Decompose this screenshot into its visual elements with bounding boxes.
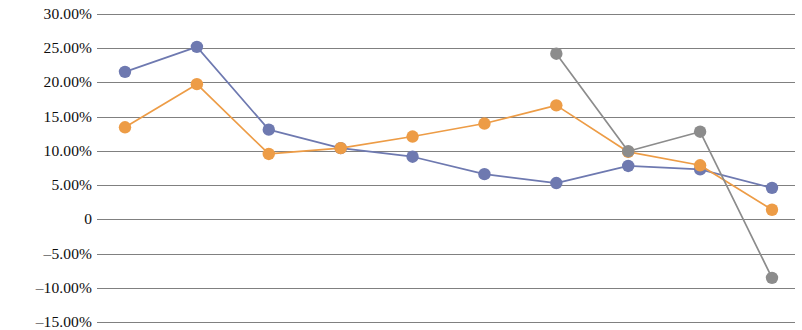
data-point-marker[interactable]: [191, 41, 203, 53]
data-point-marker[interactable]: [550, 47, 562, 59]
data-point-marker[interactable]: [550, 99, 562, 111]
series-line-2: [125, 84, 772, 210]
data-point-marker[interactable]: [119, 66, 131, 78]
data-point-marker[interactable]: [622, 160, 634, 172]
data-point-marker[interactable]: [406, 151, 418, 163]
line-chart: 30.00%25.00%20.00%15.00%10.00%5.00%0–5.0…: [0, 0, 802, 330]
data-point-marker[interactable]: [766, 272, 778, 284]
data-point-marker[interactable]: [478, 117, 490, 129]
plot-svg: [0, 0, 802, 330]
data-point-marker[interactable]: [766, 204, 778, 216]
data-point-marker[interactable]: [478, 168, 490, 180]
data-series-group: [119, 41, 778, 284]
data-point-marker[interactable]: [622, 145, 634, 157]
data-point-marker[interactable]: [263, 123, 275, 135]
data-point-marker[interactable]: [694, 159, 706, 171]
data-point-marker[interactable]: [191, 78, 203, 90]
data-point-marker[interactable]: [766, 182, 778, 194]
series-line-3: [556, 54, 772, 278]
data-point-marker[interactable]: [694, 126, 706, 138]
data-point-marker[interactable]: [406, 130, 418, 142]
data-point-marker[interactable]: [550, 177, 562, 189]
data-point-marker[interactable]: [263, 148, 275, 160]
plot-area: [0, 0, 802, 330]
data-point-marker[interactable]: [119, 121, 131, 133]
data-point-marker[interactable]: [334, 142, 346, 154]
